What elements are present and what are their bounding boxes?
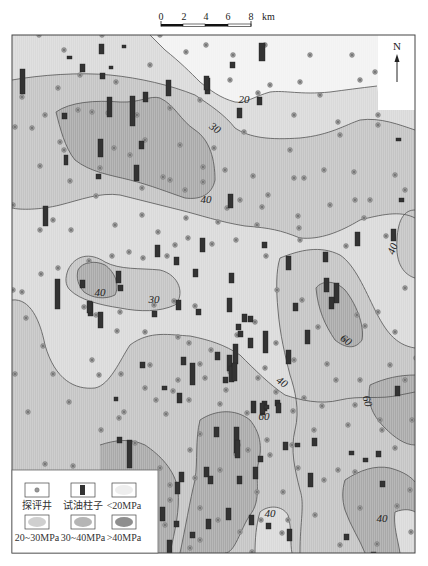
test-column-marker xyxy=(179,472,184,482)
test-column-marker xyxy=(162,386,167,390)
test-column-marker xyxy=(305,330,310,344)
test-column-marker xyxy=(363,458,368,462)
well-marker xyxy=(279,559,284,564)
test-column-marker xyxy=(248,316,253,322)
test-column-marker xyxy=(308,473,313,487)
test-column-marker xyxy=(43,206,48,226)
test-column-marker xyxy=(20,69,25,94)
test-column-marker xyxy=(204,467,209,477)
north-label: N xyxy=(393,40,401,52)
test-column-marker xyxy=(249,515,254,525)
test-column-marker xyxy=(55,279,60,309)
scale-unit: km xyxy=(262,11,275,22)
test-column-marker xyxy=(237,108,242,118)
test-column-marker xyxy=(276,403,281,413)
contour-value-label: 60 xyxy=(259,410,271,422)
pressure-contour-map: 0 2 4 6 8 km xyxy=(0,0,428,566)
test-column-marker xyxy=(177,393,182,403)
test-column-marker xyxy=(134,165,139,181)
test-column-marker xyxy=(117,437,122,443)
test-column-marker xyxy=(130,96,135,126)
test-column-marker xyxy=(253,467,258,479)
test-column-marker xyxy=(87,301,92,313)
scale-tick-6: 6 xyxy=(226,11,231,22)
test-column-marker xyxy=(190,532,195,538)
test-column-marker xyxy=(286,256,291,270)
test-column-marker xyxy=(226,508,231,520)
test-column-marker xyxy=(238,331,243,337)
well-marker xyxy=(313,558,318,563)
test-column-icon xyxy=(80,485,85,495)
test-column-marker xyxy=(227,298,232,312)
scale-tick-2: 2 xyxy=(182,11,187,22)
test-column-marker xyxy=(230,62,235,68)
test-column-marker xyxy=(143,92,148,102)
test-column-marker xyxy=(116,271,121,283)
test-column-marker xyxy=(208,476,213,484)
test-column-marker xyxy=(259,43,265,61)
legend: 探评井 试油柱子 <20MPa 20~30MPa 30~40MPa >40MPa xyxy=(12,470,158,553)
scale-tick-4: 4 xyxy=(204,11,209,22)
scale-tick-8: 8 xyxy=(249,11,254,22)
well-marker xyxy=(350,558,355,563)
test-column-marker xyxy=(160,507,165,521)
contour-value-label: 40 xyxy=(95,286,107,298)
test-column-marker xyxy=(206,519,211,529)
test-column-marker xyxy=(64,155,68,165)
test-column-marker xyxy=(155,245,160,257)
legend-label-column: 试油柱子 xyxy=(63,499,103,511)
test-column-marker xyxy=(295,443,300,447)
test-column-marker xyxy=(235,440,240,458)
test-column-marker xyxy=(139,141,144,149)
test-column-marker xyxy=(114,397,118,401)
legend-label-20-30: 20~30MPa xyxy=(15,532,60,543)
test-column-marker xyxy=(399,198,404,202)
test-column-marker xyxy=(107,97,112,117)
test-column-marker xyxy=(287,529,292,541)
test-column-marker xyxy=(228,194,233,208)
test-column-marker xyxy=(258,456,263,462)
test-column-marker xyxy=(376,451,381,457)
test-column-marker xyxy=(166,80,171,96)
test-column-marker xyxy=(236,324,241,330)
test-column-marker xyxy=(167,540,172,554)
test-column-marker xyxy=(391,229,396,241)
legend-label-gt40: >40MPa xyxy=(107,532,142,543)
test-column-marker xyxy=(242,314,247,322)
test-column-marker xyxy=(181,357,186,365)
legend-label-well: 探评井 xyxy=(22,499,52,511)
test-column-marker xyxy=(324,278,329,292)
test-column-marker xyxy=(196,309,201,315)
test-column-marker xyxy=(190,363,195,385)
test-column-marker xyxy=(62,113,67,119)
test-column-marker xyxy=(80,280,85,288)
test-column-marker xyxy=(286,350,291,364)
test-column-marker xyxy=(251,401,256,413)
test-column-marker xyxy=(215,352,220,360)
test-column-marker xyxy=(204,76,209,90)
test-column-marker xyxy=(233,344,238,364)
test-column-marker xyxy=(176,300,181,310)
contour-value-label: 40 xyxy=(201,193,213,205)
test-column-marker xyxy=(396,138,401,141)
contour-value-label: 20 xyxy=(239,93,251,105)
test-column-marker xyxy=(98,139,103,157)
test-column-marker xyxy=(223,377,228,383)
test-column-marker xyxy=(349,451,354,455)
scale-tick-0: 0 xyxy=(159,11,164,22)
test-column-marker xyxy=(293,303,298,311)
contour-value-label: 40 xyxy=(265,507,277,519)
test-column-marker xyxy=(229,273,234,283)
test-column-marker xyxy=(99,44,104,54)
test-column-marker xyxy=(264,405,269,409)
test-column-marker xyxy=(109,66,113,69)
test-column-marker xyxy=(175,482,180,494)
test-column-marker xyxy=(237,476,242,484)
well-icon xyxy=(35,488,39,492)
test-column-marker xyxy=(263,331,268,353)
test-column-marker xyxy=(380,481,385,487)
contour-value-label: 40 xyxy=(377,512,389,524)
well-marker xyxy=(232,554,237,559)
scale-bar: 0 2 4 6 8 km xyxy=(159,11,276,27)
test-column-marker xyxy=(174,521,179,527)
